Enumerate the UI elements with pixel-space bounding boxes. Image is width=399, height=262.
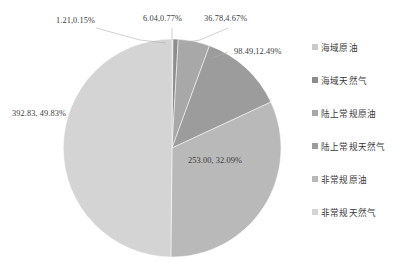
legend-swatch-icon bbox=[312, 209, 318, 215]
legend-swatch-icon bbox=[312, 44, 318, 50]
callout-label-lushang-tianranqi: 98.49,12.49% bbox=[234, 47, 282, 56]
legend-item-label: 陆上常规天然气 bbox=[321, 140, 385, 152]
pie-slices bbox=[63, 39, 281, 257]
pie-chart: 1.21,0.15% 6.04,0.77% 36.78,4.67% 98.49,… bbox=[0, 0, 399, 262]
legend-item-label: 非常规原油 bbox=[321, 173, 367, 185]
legend-item[interactable]: 海域原油 bbox=[312, 30, 398, 63]
callout-label-haiyu-tianranqi: 6.04,0.77% bbox=[143, 14, 182, 23]
legend-item-label: 陆上常规原油 bbox=[321, 107, 376, 119]
callout-label-haiyu-yuanyou: 1.21,0.15% bbox=[56, 16, 95, 25]
callout-label-feichanggui-tianranqi: 392.83, 49.83% bbox=[12, 109, 66, 118]
legend-item-label: 海域原油 bbox=[321, 41, 358, 53]
legend-item[interactable]: 陆上常规天然气 bbox=[312, 129, 398, 162]
legend-item[interactable]: 非常规天然气 bbox=[312, 195, 398, 228]
callout-label-lushang-yuanyou: 36.78,4.67% bbox=[204, 14, 247, 23]
legend: 海域原油海域天然气陆上常规原油陆上常规天然气非常规原油非常规天然气 bbox=[312, 30, 398, 228]
legend-item[interactable]: 海域天然气 bbox=[312, 63, 398, 96]
legend-item-label: 非常规天然气 bbox=[321, 206, 376, 218]
pie-slice[interactable] bbox=[63, 39, 172, 257]
legend-item-label: 海域天然气 bbox=[321, 74, 367, 86]
legend-swatch-icon bbox=[312, 77, 318, 83]
legend-swatch-icon bbox=[312, 110, 318, 116]
legend-swatch-icon bbox=[312, 176, 318, 182]
callout-label-feichanggui-yuanyou: 253.00, 32.09% bbox=[188, 156, 242, 165]
legend-swatch-icon bbox=[312, 143, 318, 149]
legend-item[interactable]: 陆上常规原油 bbox=[312, 96, 398, 129]
legend-item[interactable]: 非常规原油 bbox=[312, 162, 398, 195]
